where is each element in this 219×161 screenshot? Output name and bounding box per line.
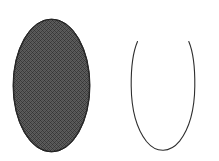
shaded-ellipse-group	[13, 19, 90, 152]
figure-svg	[0, 0, 219, 161]
figure-canvas	[0, 0, 219, 161]
